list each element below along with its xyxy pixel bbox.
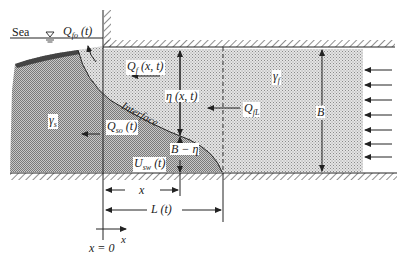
q-fl-subscript: fL xyxy=(253,108,260,117)
bottom-confining-hatch xyxy=(10,173,397,180)
q-so-argument: (t) xyxy=(123,119,137,133)
q-fl-label: QfL xyxy=(243,102,260,117)
top-confining-hatch xyxy=(103,40,395,47)
inflow-arrows xyxy=(365,70,392,157)
coast-wall-hatch xyxy=(104,10,111,47)
q-fo-argument: (t) xyxy=(78,24,92,38)
q-fo-label: Qfo (t) xyxy=(63,25,92,40)
q-f-argument: (x, t) xyxy=(138,59,164,73)
u-sw-subscript: sw xyxy=(143,163,151,172)
u-sw-label: Usw (t) xyxy=(133,157,166,172)
aquifer-diagram: Sea Qfo (t) Qf (x, t) η (x, t) Interface… xyxy=(0,0,397,259)
gamma-s-label: γs xyxy=(48,114,58,129)
q-f-label: Qf (x, t) xyxy=(126,60,165,75)
x-dimension-label: x xyxy=(138,184,145,196)
u-sw-symbol: U xyxy=(134,156,143,170)
sea-label: Sea xyxy=(12,26,29,38)
x-origin-label: x = 0 xyxy=(89,242,114,254)
gamma-f-label: γf xyxy=(272,70,281,85)
x-axis-label: x xyxy=(121,234,126,245)
q-so-subscript: so xyxy=(116,126,123,135)
water-level-icon xyxy=(46,32,54,37)
q-fo-symbol: Q xyxy=(63,24,72,38)
l-dimension-label: L (t) xyxy=(150,203,173,215)
q-so-symbol: Q xyxy=(107,119,116,133)
q-so-label: Qso (t) xyxy=(106,120,138,135)
q-fl-symbol: Q xyxy=(244,101,253,115)
eta-label: η (x, t) xyxy=(165,90,199,102)
b-label: B xyxy=(316,106,325,118)
q-f-symbol: Q xyxy=(127,59,136,73)
gamma-s-subscript: s xyxy=(54,120,57,129)
b-minus-eta-label: B − η xyxy=(170,143,199,155)
diagram-canvas xyxy=(0,0,397,259)
u-sw-argument: (t) xyxy=(151,156,165,170)
gamma-f-subscript: f xyxy=(278,76,280,85)
